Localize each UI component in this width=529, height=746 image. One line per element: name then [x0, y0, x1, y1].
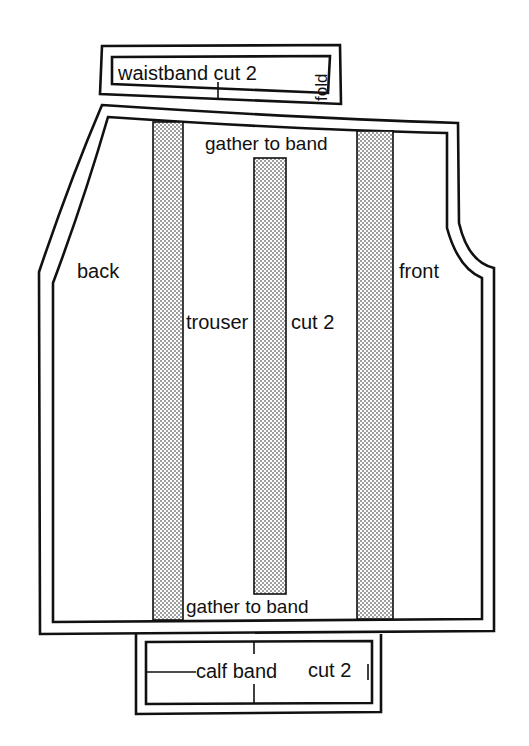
trouser-cut-label: cut 2: [291, 312, 334, 332]
fold-label: fold: [313, 74, 330, 101]
bottom-gather-note: gather to band: [184, 597, 311, 616]
trouser-label: trouser: [184, 312, 250, 332]
top-gather-note: gather to band: [203, 134, 330, 153]
back-label: back: [77, 261, 119, 281]
waistband-label: waistband cut 2: [118, 63, 257, 83]
stipple-strip-left: [153, 122, 183, 620]
calf-band-label: calf band: [196, 661, 277, 681]
trouser-piece: [39, 105, 494, 634]
sewing-pattern-diagram: [0, 0, 529, 746]
stipple-strip-right: [357, 131, 393, 619]
calf-band-cut-label: cut 2: [308, 660, 351, 680]
stipple-strip-center: [254, 158, 286, 594]
front-label: front: [399, 261, 439, 281]
